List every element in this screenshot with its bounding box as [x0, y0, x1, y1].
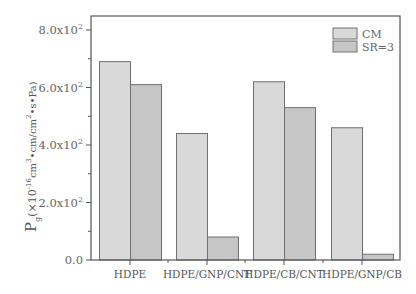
x-category-label: HDPE/GNP/CB: [322, 268, 402, 280]
plot-area: 0.02.0x1024.0x1026.0x1028.0x102HDPEHDPE/…: [22, 16, 402, 280]
y-tick-label: 6.0x102: [38, 80, 83, 95]
bar-sr3-3: [363, 254, 394, 260]
bar-chart: 0.02.0x1024.0x1026.0x1028.0x102HDPEHDPE/…: [0, 0, 416, 294]
bar-sr3-0: [131, 85, 162, 260]
bar-cm-3: [332, 128, 363, 260]
legend-label: CM: [362, 28, 382, 41]
x-category-label: HDPE: [114, 268, 146, 280]
y-tick-label: 8.0x102: [38, 22, 83, 37]
bar-cm-1: [177, 134, 208, 261]
y-tick-label: 2.0x102: [38, 195, 83, 210]
bar-cm-0: [100, 62, 131, 260]
legend-swatch: [333, 41, 357, 52]
bar-sr3-1: [208, 237, 239, 260]
legend-label: SR=3: [362, 41, 394, 54]
y-tick-label: 0.0: [65, 253, 83, 267]
x-category-label: HDPE/GNP/CNT: [163, 268, 251, 280]
bar-sr3-2: [285, 108, 316, 260]
y-tick-label: 4.0x102: [38, 137, 83, 152]
x-category-label: HDPE/CB/CNT: [244, 268, 323, 280]
bar-cm-2: [254, 82, 285, 260]
legend-swatch: [333, 28, 357, 39]
